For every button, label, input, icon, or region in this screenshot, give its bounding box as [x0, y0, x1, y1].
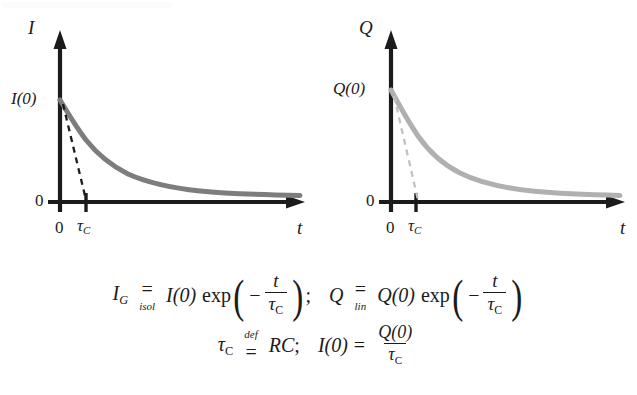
eq1-frac1-denominator: τC	[265, 292, 288, 317]
axis-label-Q: Q	[359, 18, 373, 37]
eq2-frac-denominator: τC	[384, 343, 406, 366]
eq1-relation-lin: = lin	[355, 279, 367, 312]
eq1-frac2-denominator: τC	[483, 292, 506, 317]
figure-page: I I(0) 0 0 τC t Q Q(0) 0 0	[0, 0, 637, 395]
y-value-label-I0: I(0)	[11, 90, 36, 107]
tau-subscript-charge: C	[414, 224, 421, 236]
eq1-relation-isol: = isol	[139, 279, 155, 312]
eq1-paren-close-1: )	[292, 285, 303, 309]
eq2-relation-def: def =	[244, 329, 257, 362]
eq1-exp-1: exp	[202, 284, 231, 307]
eq1-frac1-numerator: t	[269, 271, 282, 292]
tangent-charge	[394, 96, 418, 200]
eq1-factor-Q0: Q(0)	[377, 284, 415, 307]
curve-charge-exponential	[391, 90, 620, 195]
y-value-label-Q0: Q(0)	[333, 80, 365, 97]
tangent-current	[63, 104, 86, 200]
eq2-rhs-RC: RC	[269, 334, 295, 357]
eq1-lhs-I: IG	[113, 282, 129, 308]
eq2-separator: ;	[294, 334, 304, 357]
curve-current-exponential	[60, 100, 300, 195]
eq1-separator: ;	[306, 284, 316, 307]
eq1-minus-1: −	[246, 284, 261, 307]
equation-row-1: IG = isol I(0) exp ( − t τC ) ; Q =	[0, 272, 637, 318]
eq2-note-def: def	[244, 329, 257, 340]
chart-charge-decay-canvas	[330, 0, 637, 255]
eq2-frac-den-sub: C	[395, 353, 402, 365]
x-origin-label-charge: 0	[386, 219, 395, 236]
y-zero-label-current: 0	[35, 192, 44, 209]
chart-current-decay: I I(0) 0 0 τC t	[0, 0, 330, 255]
chart-charge-decay: Q Q(0) 0 0 τC t	[330, 0, 637, 255]
y-axis-current	[54, 30, 67, 212]
eq1-lhs-Q: Q	[329, 284, 343, 307]
axis-label-t-current: t	[297, 218, 302, 237]
eq2-lhs-tau-base: τ	[218, 333, 225, 355]
tau-subscript-current: C	[83, 224, 90, 236]
eq2-lhs-tau-sub: C	[225, 344, 233, 358]
equation-block: IG = isol I(0) exp ( − t τC ) ; Q =	[0, 262, 637, 395]
eq1-fraction-1: t τC	[265, 271, 288, 317]
eq2-lhs-tau: τC	[218, 333, 233, 359]
x-tick-label-tau-c-current: τC	[77, 217, 90, 236]
eq1-fraction-2: t τC	[483, 271, 506, 317]
eq1-paren-close-2: )	[511, 285, 522, 309]
axis-label-I: I	[28, 18, 34, 37]
eq2-equals-2: =	[354, 334, 365, 357]
eq1-frac2-numerator: t	[488, 271, 501, 292]
x-tick-label-tau-c-charge: τC	[408, 217, 421, 236]
x-origin-label-current: 0	[55, 219, 64, 236]
eq2-lhs-I0: I(0)	[318, 334, 348, 357]
equation-row-2: τC def = RC ; I(0) = Q(0) τC	[0, 324, 637, 367]
eq1-note-isol: isol	[139, 301, 155, 312]
eq1-paren-open-1: (	[233, 285, 244, 309]
eq1-factor-I0: I(0)	[166, 284, 196, 307]
eq1-paren-open-2: (	[452, 285, 463, 309]
eq1-frac2-den-sub: C	[494, 304, 502, 317]
eq2-frac-numerator: Q(0)	[374, 323, 416, 343]
eq1-note-lin: lin	[355, 301, 367, 312]
eq1-equals-2: =	[355, 279, 366, 299]
eq2-fraction: Q(0) τC	[374, 323, 416, 366]
eq1-frac1-den-sub: C	[275, 304, 283, 317]
y-zero-label-charge: 0	[366, 192, 375, 209]
chart-current-decay-canvas	[0, 0, 330, 255]
eq1-exp-2: exp	[421, 284, 450, 307]
eq1-minus-2: −	[465, 284, 480, 307]
y-axis-charge	[385, 30, 398, 212]
eq1-lhs-I-sub: G	[119, 293, 128, 307]
eq2-equals-1: =	[245, 342, 256, 362]
eq1-equals-1: =	[141, 279, 152, 299]
axis-label-t-charge: t	[620, 218, 625, 237]
